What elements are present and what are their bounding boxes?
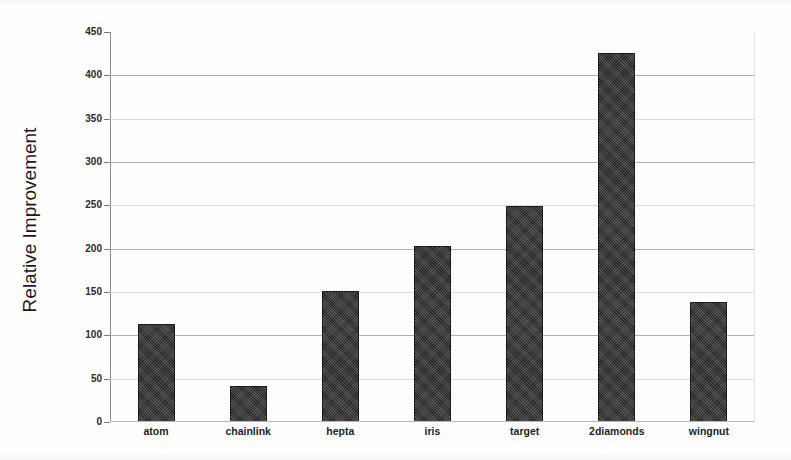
y-axis-title-text: Relative Improvement [19, 128, 41, 313]
x-axis-tick-label: 2diamonds [589, 425, 644, 437]
plot-right-border [754, 32, 755, 422]
x-axis-tick-label: chainlink [225, 425, 271, 437]
x-axis-tick-labels: atomchainlinkheptairistarget2diamondswin… [110, 425, 755, 449]
y-axis-line [110, 32, 111, 422]
gridline [110, 119, 755, 120]
x-axis-tick-label: target [510, 425, 539, 437]
y-axis-tick-mark [104, 162, 110, 163]
y-axis-tick-label: 400 [58, 70, 102, 80]
bar-iris [414, 246, 451, 422]
x-axis-line [110, 421, 755, 422]
y-axis-tick-mark [104, 422, 110, 423]
bar-2diamonds [598, 53, 635, 422]
y-axis-tick-mark [104, 335, 110, 336]
y-axis-tick-label: 450 [58, 27, 102, 37]
y-axis-tick-label: 350 [58, 114, 102, 124]
y-axis-tick-mark [104, 205, 110, 206]
bar-chainlink [230, 386, 267, 422]
bar-hepta [322, 291, 359, 422]
x-axis-tick-label: wingnut [689, 425, 729, 437]
scan-edge-top [0, 0, 791, 6]
y-axis-tick-mark [104, 379, 110, 380]
bar-wingnut [690, 302, 727, 422]
y-axis-tick-label: 0 [58, 417, 102, 427]
y-axis-tick-mark [104, 292, 110, 293]
y-axis-tick-mark [104, 75, 110, 76]
bar-target [506, 206, 543, 422]
y-axis-tick-label: 250 [58, 200, 102, 210]
bar-atom [138, 324, 175, 422]
y-axis-tick-mark [104, 119, 110, 120]
y-axis-title: Relative Improvement [0, 0, 60, 440]
gridline [110, 205, 755, 206]
gridline [110, 162, 755, 163]
x-axis-tick-label: iris [425, 425, 441, 437]
y-axis-tick-label: 150 [58, 287, 102, 297]
chart-screenshot: Relative Improvement 0501001502002503003… [0, 0, 791, 460]
y-axis-tick-label: 50 [58, 374, 102, 384]
y-axis-tick-label: 300 [58, 157, 102, 167]
y-axis-tick-mark [104, 32, 110, 33]
y-axis-tick-label: 100 [58, 330, 102, 340]
y-axis-tick-labels: 050100150200250300350400450 [52, 32, 102, 422]
y-axis-tick-label: 200 [58, 244, 102, 254]
scan-edge-bottom [0, 452, 791, 460]
y-axis-tick-mark [104, 249, 110, 250]
x-axis-tick-label: hepta [326, 425, 354, 437]
x-axis-tick-label: atom [144, 425, 169, 437]
gridline [110, 75, 755, 76]
plot-area [110, 32, 755, 422]
